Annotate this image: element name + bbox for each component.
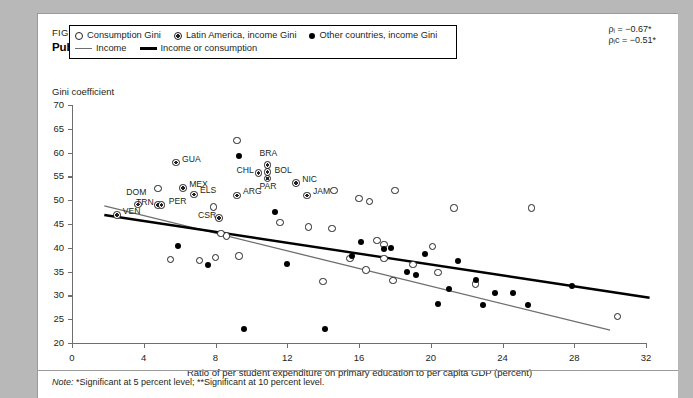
- trendline-income-or-consumption: [104, 215, 649, 298]
- data-point: [319, 278, 326, 285]
- data-point-chl: [255, 169, 263, 177]
- legend-label-income-or-consumption: Income or consumption: [161, 42, 258, 55]
- data-point: [380, 255, 387, 262]
- data-point: [236, 153, 242, 159]
- data-point-mex: [179, 184, 187, 192]
- footer-divider: [38, 370, 678, 371]
- data-point: [450, 204, 457, 211]
- data-point: [305, 223, 312, 230]
- chart-legend: Consumption Gini Latin America, income G…: [69, 25, 457, 59]
- data-point-gua: [172, 159, 180, 167]
- data-point: [389, 277, 396, 284]
- country-label-bra: BRA: [260, 148, 278, 158]
- data-point: [446, 286, 452, 292]
- data-point-nic: [292, 179, 300, 187]
- data-point-arg: [233, 192, 241, 200]
- data-point: [409, 261, 416, 268]
- half-circle-icon: [174, 32, 182, 40]
- country-label-ven: VEN: [123, 206, 141, 216]
- country-label-chl: CHL: [237, 165, 254, 175]
- data-point: [362, 266, 369, 273]
- data-point: [480, 302, 486, 308]
- data-point: [435, 301, 441, 307]
- thin-gray-line-icon: [75, 48, 92, 49]
- note-prefix: Note:: [52, 377, 74, 387]
- thick-black-line-icon: [140, 47, 157, 50]
- legend-row-markers: Consumption Gini Latin America, income G…: [75, 29, 450, 42]
- correlation-annotations: ρᵢ = −0.67* ρᵢᴄ = −0.51*: [608, 24, 656, 46]
- data-point-jam: [303, 192, 311, 200]
- data-point: [276, 219, 283, 226]
- legend-label-income: Income: [96, 42, 127, 55]
- data-point: [154, 185, 161, 192]
- data-point-csr: [215, 214, 223, 222]
- data-point: [473, 277, 479, 283]
- data-point: [455, 258, 461, 264]
- data-point: [391, 187, 398, 194]
- data-point: [349, 253, 355, 259]
- country-label-per: PER: [169, 196, 187, 206]
- data-point: [272, 209, 278, 215]
- data-point: [330, 187, 337, 194]
- data-point: [235, 252, 242, 259]
- trendline-income: [104, 206, 610, 330]
- filled-circle-icon: [309, 33, 315, 39]
- country-label-nic: NIC: [302, 174, 317, 184]
- note-text: *Significant at 5 percent level; **Signi…: [76, 377, 324, 387]
- rho-income: ρᵢ = −0.67*: [608, 24, 656, 35]
- data-point: [614, 313, 621, 320]
- data-point: [284, 261, 290, 267]
- figure-page: FIGURE 6.15 Public expenditure on primar…: [37, 13, 678, 398]
- country-label-bol: BOL: [275, 165, 292, 175]
- legend-row-lines: Income Income or consumption: [75, 42, 450, 55]
- data-point: [233, 137, 240, 144]
- country-label-jam: JAM: [313, 186, 330, 196]
- rho-income-consumption: ρᵢᴄ = −0.51*: [608, 35, 656, 46]
- data-point: [223, 232, 230, 239]
- open-circle-icon: [75, 32, 83, 40]
- data-point-ven: [113, 211, 121, 219]
- data-point: [525, 302, 531, 308]
- country-label-arg: ARG: [243, 186, 262, 196]
- data-point: [358, 239, 364, 245]
- country-label-els: ELS: [200, 185, 216, 195]
- data-point: [381, 246, 387, 252]
- legend-label-consumption-gini: Consumption Gini: [87, 29, 161, 42]
- data-point-els: [190, 191, 198, 199]
- country-label-gua: GUA: [182, 154, 201, 164]
- legend-label-other-countries: Other countries, income Gini: [319, 29, 437, 42]
- data-point: [175, 243, 181, 249]
- data-point-per: [158, 201, 166, 209]
- data-point: [528, 204, 535, 211]
- data-point: [434, 269, 441, 276]
- figure-note: Note: *Significant at 5 percent level; *…: [52, 377, 324, 387]
- country-label-csr: CSR: [198, 210, 216, 220]
- country-label-par: PAR: [260, 181, 277, 191]
- legend-label-latin-america: Latin America, income Gini: [186, 29, 297, 42]
